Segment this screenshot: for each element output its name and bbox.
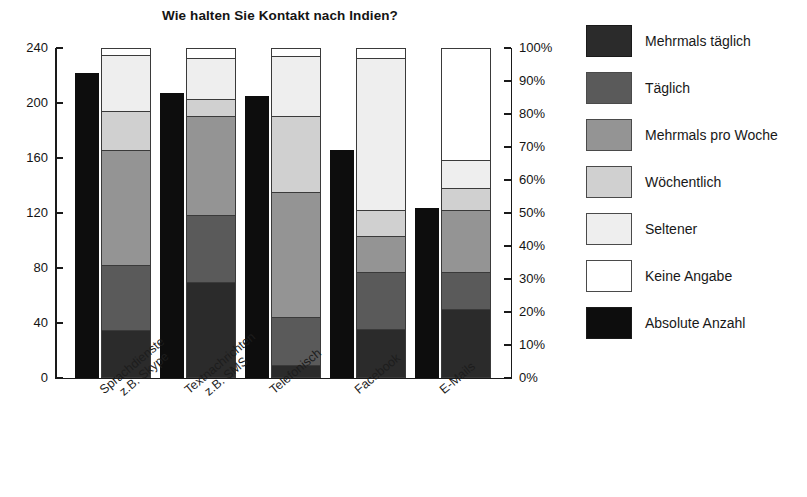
legend-label: Mehrmals täglich: [645, 33, 751, 49]
chart-title: Wie halten Sie Kontakt nach Indien?: [0, 8, 560, 23]
legend-swatch: [586, 72, 632, 104]
legend-label: Absolute Anzahl: [645, 315, 745, 331]
stacked-percentage-bar: [356, 48, 406, 378]
legend-swatch: [586, 119, 632, 151]
left-axis-tick: [56, 322, 63, 324]
left-axis-tick: [56, 157, 63, 159]
bar-segment: [101, 150, 151, 265]
bar-segment: [441, 160, 491, 188]
right-axis-tick: [504, 113, 511, 115]
legend-item[interactable]: Mehrmals täglich: [586, 24, 806, 58]
right-axis-tick: [504, 311, 511, 313]
legend-swatch: [586, 25, 632, 57]
legend-label: Wöchentlich: [645, 174, 721, 190]
bar-segment: [186, 58, 236, 99]
left-axis-tick-label: 80: [34, 261, 48, 274]
bar-segment: [186, 116, 236, 215]
legend-label: Täglich: [645, 80, 690, 96]
legend-swatch: [586, 166, 632, 198]
right-axis-tick: [504, 245, 511, 247]
bar-segment: [101, 265, 151, 330]
left-axis-labels: 24020016012080400: [0, 48, 48, 379]
legend-swatch: [586, 260, 632, 292]
right-axis-tick: [504, 212, 511, 214]
bar-segment: [356, 272, 406, 328]
bar-segment: [101, 48, 151, 55]
stacked-percentage-bar: [441, 48, 491, 378]
absolute-count-bar: [160, 93, 184, 378]
right-axis-tick: [504, 278, 511, 280]
right-axis-tick: [504, 344, 511, 346]
right-axis-tick-label: 50%: [519, 206, 545, 219]
bar-segment: [271, 56, 321, 115]
legend-label: Mehrmals pro Woche: [645, 127, 778, 143]
bar-segment: [356, 48, 406, 58]
bar-group: [330, 48, 410, 378]
bar-segment: [441, 210, 491, 273]
right-axis-tick-label: 30%: [519, 272, 545, 285]
bar-group: [415, 48, 495, 378]
right-axis-tick-label: 70%: [519, 140, 545, 153]
bar-segment: [356, 210, 406, 236]
right-axis-tick-label: 20%: [519, 305, 545, 318]
left-axis-tick: [56, 47, 63, 49]
right-axis-tick-label: 80%: [519, 107, 545, 120]
left-axis-tick-label: 160: [26, 151, 48, 164]
plot-area: [55, 48, 512, 378]
stacked-percentage-bar: [271, 48, 321, 378]
right-axis-tick: [504, 179, 511, 181]
left-axis-tick: [56, 267, 63, 269]
left-axis-tick: [56, 212, 63, 214]
bar-segment: [186, 48, 236, 58]
legend-swatch: [586, 307, 632, 339]
left-axis-tick: [56, 377, 63, 379]
stacked-percentage-bar: [186, 48, 236, 378]
left-axis-tick-label: 40: [34, 316, 48, 329]
chart-legend: Mehrmals täglichTäglichMehrmals pro Woch…: [586, 24, 806, 353]
legend-swatch: [586, 213, 632, 245]
legend-item[interactable]: Wöchentlich: [586, 165, 806, 199]
absolute-count-bar: [330, 150, 354, 378]
right-axis-tick: [504, 80, 511, 82]
absolute-count-bar: [415, 208, 439, 379]
legend-item[interactable]: Mehrmals pro Woche: [586, 118, 806, 152]
bar-group: [160, 48, 240, 378]
right-axis-tick-label: 90%: [519, 74, 545, 87]
right-axis-labels: 100%90%80%70%60%50%40%30%20%10%0%: [519, 48, 579, 379]
right-axis-tick-label: 0%: [519, 371, 538, 384]
legend-item[interactable]: Absolute Anzahl: [586, 306, 806, 340]
chart-container: Wie halten Sie Kontakt nach Indien? 2402…: [0, 0, 807, 497]
bar-segment: [356, 58, 406, 210]
right-axis-tick: [504, 146, 511, 148]
stacked-percentage-bar: [101, 48, 151, 378]
bar-segment: [271, 192, 321, 317]
bar-segment: [101, 55, 151, 111]
right-axis-tick-label: 60%: [519, 173, 545, 186]
right-axis-tick: [504, 377, 511, 379]
bar-segment: [356, 236, 406, 272]
bar-segment: [441, 48, 491, 160]
bar-segment: [186, 215, 236, 283]
left-axis-tick-label: 240: [26, 41, 48, 54]
bar-segment: [186, 99, 236, 116]
left-axis-tick-label: 200: [26, 96, 48, 109]
bar-segment: [271, 116, 321, 192]
legend-item[interactable]: Seltener: [586, 212, 806, 246]
legend-label: Seltener: [645, 221, 697, 237]
bar-group: [245, 48, 325, 378]
left-axis-tick-label: 120: [26, 206, 48, 219]
right-axis-tick-label: 40%: [519, 239, 545, 252]
right-axis-tick: [504, 47, 511, 49]
left-axis-tick: [56, 102, 63, 104]
bar-segment: [441, 188, 491, 209]
bar-segment: [101, 111, 151, 151]
bar-segment: [441, 272, 491, 308]
bar-segment: [271, 48, 321, 56]
bar-group: [75, 48, 155, 378]
legend-item[interactable]: Keine Angabe: [586, 259, 806, 293]
legend-item[interactable]: Täglich: [586, 71, 806, 105]
absolute-count-bar: [75, 73, 99, 378]
legend-label: Keine Angabe: [645, 268, 732, 284]
left-axis-tick-label: 0: [41, 371, 48, 384]
right-axis-tick-label: 100%: [519, 41, 552, 54]
